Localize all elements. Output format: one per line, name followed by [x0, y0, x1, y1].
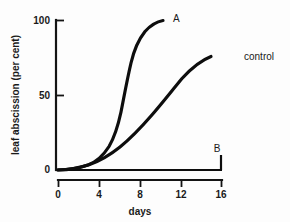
x-tick-label-12: 12 — [175, 189, 187, 200]
series-label-b: B — [214, 143, 221, 154]
y-axis-title: leaf abscission (per cent) — [10, 35, 21, 155]
series-line-a — [58, 21, 163, 171]
y-tick-label-0: 0 — [44, 164, 50, 175]
chart-figure: 100 50 0 leaf abscission (per cent) B co… — [0, 0, 290, 222]
series-label-a: A — [173, 13, 180, 24]
x-tick-label-0: 0 — [55, 189, 61, 200]
series-label-control: control — [244, 51, 274, 62]
x-tick-label-4: 4 — [96, 189, 102, 200]
line-chart-canvas: 100 50 0 leaf abscission (per cent) B co… — [0, 0, 290, 222]
y-tick-label-100: 100 — [33, 15, 50, 26]
x-axis-title: days — [129, 206, 152, 217]
series-line-control — [58, 57, 211, 171]
x-tick-label-8: 8 — [137, 189, 143, 200]
y-tick-label-50: 50 — [39, 90, 51, 101]
x-tick-label-16: 16 — [215, 189, 227, 200]
